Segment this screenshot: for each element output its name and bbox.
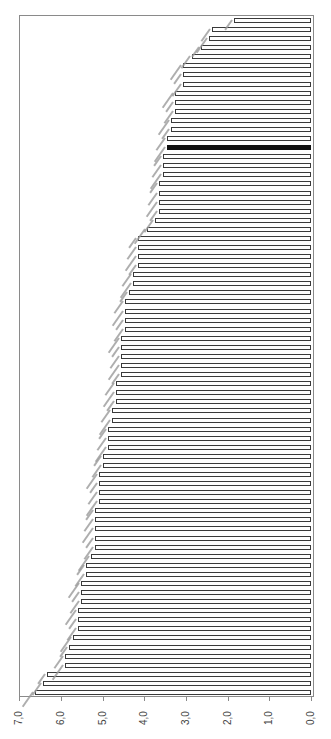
axis-tick-label: 5,0 [97, 711, 108, 725]
bar [99, 499, 311, 504]
bar [95, 517, 311, 522]
bar [171, 127, 311, 132]
bar [95, 508, 311, 513]
axis-tick-label: 0,0 [305, 711, 316, 725]
bar [159, 200, 311, 205]
bar [121, 372, 311, 377]
bar [129, 290, 311, 295]
bar [121, 354, 311, 359]
bar [121, 363, 311, 368]
bar [159, 191, 311, 196]
bar [103, 463, 311, 468]
bar [125, 299, 311, 304]
bar [47, 672, 311, 677]
bar [163, 163, 311, 168]
bar [86, 563, 311, 568]
bar [138, 263, 311, 268]
bar [116, 390, 311, 395]
bar [167, 136, 311, 141]
bar [155, 218, 311, 223]
bar [201, 45, 311, 50]
bar [138, 254, 311, 259]
bar [138, 236, 311, 241]
bar [35, 690, 311, 695]
bar [78, 617, 311, 622]
bar [108, 436, 311, 441]
axis-tick-label: 7,0 [13, 711, 24, 725]
bar [125, 327, 311, 332]
axis-tick-label: 1,0 [263, 711, 274, 725]
bar [121, 336, 311, 341]
axis-tick [311, 697, 312, 701]
bar [175, 100, 311, 105]
bar [81, 581, 311, 586]
bar [163, 154, 311, 159]
axis-tick [228, 697, 229, 701]
axis-tick-label: 2,0 [222, 711, 233, 725]
bar [133, 281, 311, 286]
bar [99, 472, 311, 477]
bar [175, 109, 311, 114]
bar [209, 36, 311, 41]
axis-tick [19, 697, 20, 701]
bar [175, 91, 311, 96]
bar [69, 645, 311, 650]
bar [112, 418, 311, 423]
bar [108, 427, 311, 432]
bar [121, 345, 311, 350]
bar [73, 635, 311, 640]
bar [95, 545, 311, 550]
bar [86, 572, 311, 577]
axis-tick [61, 697, 62, 701]
bar [95, 526, 311, 531]
bar [81, 590, 311, 595]
bar [183, 72, 311, 77]
bar [183, 63, 311, 68]
bar [192, 54, 311, 59]
bar [125, 318, 311, 323]
bar [116, 399, 311, 404]
bar [95, 536, 311, 541]
bar [167, 145, 311, 150]
bar [171, 118, 311, 123]
bar [81, 599, 311, 604]
bar [108, 445, 311, 450]
bar [99, 490, 311, 495]
bar [99, 481, 311, 486]
bar [103, 454, 311, 459]
bar [65, 663, 311, 668]
bar [147, 227, 311, 232]
bar [159, 181, 311, 186]
axis-tick [269, 697, 270, 701]
bar [43, 681, 311, 686]
axis-tick-label: 6,0 [55, 711, 66, 725]
bar [112, 408, 311, 413]
bar [133, 272, 311, 277]
bar [78, 608, 311, 613]
bar [138, 245, 311, 250]
axis-tick-label: 4,0 [138, 711, 149, 725]
bar [183, 82, 311, 87]
bar [234, 18, 311, 23]
axis-tick [186, 697, 187, 701]
bar [159, 209, 311, 214]
bar-chart: 7,06,05,04,03,02,01,00,0 [0, 0, 331, 739]
bar [91, 554, 311, 559]
bar [116, 381, 311, 386]
axis-tick-label: 3,0 [180, 711, 191, 725]
bar [163, 172, 311, 177]
axis-tick [144, 697, 145, 701]
axis-tick [103, 697, 104, 701]
bar [65, 654, 311, 659]
bar [125, 309, 311, 314]
bar [78, 626, 311, 631]
